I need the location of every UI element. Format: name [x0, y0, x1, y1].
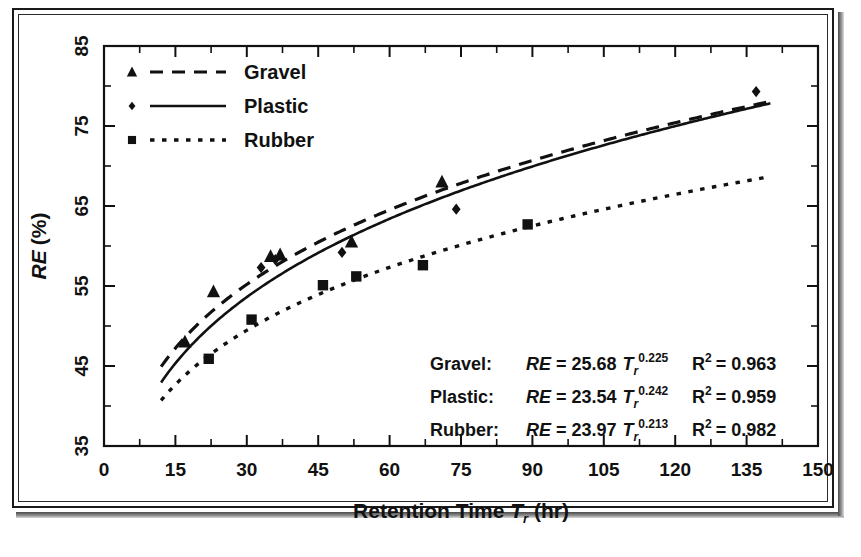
legend-label-rubber: Rubber: [244, 129, 314, 151]
x-tick-label: 105: [588, 459, 620, 480]
data-point-rubber: [522, 219, 532, 229]
data-point-gravel: [345, 235, 358, 248]
y-tick-label: 55: [71, 275, 92, 297]
x-tick-label: 90: [522, 459, 543, 480]
data-point-plastic: [752, 86, 761, 97]
data-point-rubber: [318, 280, 328, 290]
legend: GravelPlasticRubber: [127, 61, 314, 151]
data-point-gravel: [435, 175, 448, 188]
equation-annotation-block: Gravel:RE= 25.68Tr0.225R2= 0.963Plastic:…: [430, 351, 776, 444]
x-axis-title: Retention Time Tr (hr): [353, 499, 569, 526]
y-tick-label: 85: [71, 35, 92, 57]
data-point-rubber: [351, 271, 361, 281]
x-tick-label: 120: [659, 459, 691, 480]
legend-marker-rubber: [128, 136, 136, 144]
equation-r-squared: R2= 0.963: [692, 351, 776, 374]
y-tick-label: 75: [71, 115, 92, 137]
data-point-plastic: [338, 247, 347, 258]
x-tick-label: 150: [802, 459, 834, 480]
legend-label-gravel: Gravel: [244, 61, 306, 83]
equation-series-label: Gravel:: [430, 354, 492, 374]
data-point-gravel: [207, 284, 220, 297]
data-point-plastic: [452, 204, 461, 215]
x-tick-label: 45: [308, 459, 330, 480]
equation-series-label: Plastic:: [430, 387, 494, 407]
y-tick-label: 65: [71, 195, 92, 217]
legend-label-plastic: Plastic: [244, 95, 308, 117]
y-axis-title: RE(%): [27, 213, 50, 280]
equation-expression: RE= 23.97Tr0.213: [526, 417, 669, 444]
x-tick-label: 0: [99, 459, 110, 480]
equation-expression: RE= 23.54Tr0.242: [526, 384, 669, 411]
x-tick-label: 30: [236, 459, 257, 480]
data-point-rubber: [418, 260, 428, 270]
y-tick-label: 35: [71, 435, 92, 457]
legend-marker-gravel: [127, 66, 137, 76]
x-tick-label: 60: [379, 459, 400, 480]
x-tick-label: 75: [450, 459, 472, 480]
data-point-rubber: [204, 354, 214, 364]
x-tick-label: 135: [731, 459, 763, 480]
y-tick-label: 45: [71, 355, 92, 377]
y-tick-label-group: 354555657585: [71, 35, 92, 457]
equation-series-label: Rubber:: [430, 420, 499, 440]
x-tick-label-group: 0153045607590105120135150: [99, 459, 834, 480]
chart-canvas: 0153045607590105120135150 354555657585 G…: [0, 0, 861, 557]
equation-expression: RE= 25.68Tr0.225: [526, 351, 669, 378]
x-tick-label: 15: [165, 459, 187, 480]
equation-r-squared: R2= 0.959: [692, 384, 776, 407]
equation-r-squared: R2= 0.982: [692, 417, 776, 440]
data-point-rubber: [246, 314, 256, 324]
legend-marker-plastic: [129, 102, 136, 111]
